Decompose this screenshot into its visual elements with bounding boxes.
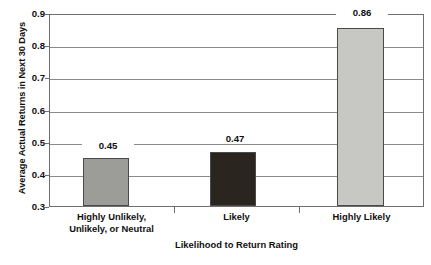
y-tick-label-0.9: 0.9 — [23, 9, 45, 19]
y-tick-label-0.5: 0.5 — [23, 138, 45, 148]
x-category-label-2: Highly Likely — [299, 211, 424, 223]
bar-value-label-2: 0.86 — [336, 8, 388, 18]
y-tick-label-0.4: 0.4 — [23, 170, 45, 180]
x-category-label-1: Likely — [174, 211, 299, 223]
y-tick-label-0.3: 0.3 — [23, 202, 45, 212]
plot-area — [49, 14, 424, 207]
x-category-label-0: Highly Unlikely, Unlikely, or Neutral — [49, 211, 174, 234]
y-axis-tick-labels: 0.9 0.8 0.7 0.6 0.5 0.4 0.3 — [22, 0, 45, 265]
x-axis-title: Likelihood to Return Rating — [49, 239, 424, 250]
y-tick-mark-0.3 — [45, 207, 49, 208]
bar-highly-unlikely-unlikely-or-neutral — [83, 158, 129, 206]
bar-likely — [210, 152, 256, 206]
bar-value-label-1: 0.47 — [209, 134, 261, 144]
bar-highly-likely — [337, 28, 384, 206]
y-tick-label-0.8: 0.8 — [23, 41, 45, 51]
y-tick-label-0.6: 0.6 — [23, 106, 45, 116]
bar-chart: Average Actual Returns in Next 30 Days 0… — [0, 0, 431, 265]
y-tick-label-0.7: 0.7 — [23, 74, 45, 84]
bar-value-label-0: 0.45 — [82, 141, 134, 151]
